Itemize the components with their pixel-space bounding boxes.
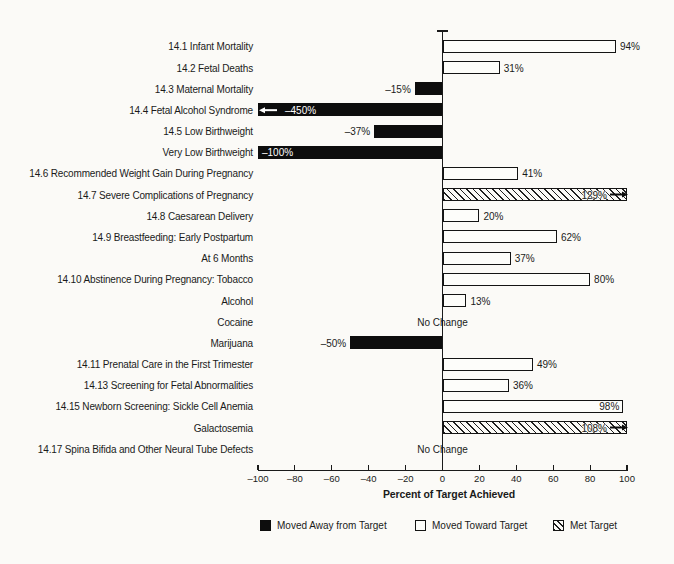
legend-item: Moved Away from Target	[260, 520, 387, 531]
legend-label: Met Target	[570, 520, 617, 531]
legend: Moved Away from TargetMoved Toward Targe…	[0, 0, 674, 564]
chart-figure: 14.1 Infant Mortality94%14.2 Fetal Death…	[0, 0, 674, 564]
legend-item: Met Target	[553, 520, 617, 531]
legend-label: Moved Toward Target	[432, 520, 527, 531]
legend-swatch-met	[553, 520, 564, 531]
legend-item: Moved Toward Target	[415, 520, 527, 531]
legend-label: Moved Away from Target	[277, 520, 387, 531]
legend-swatch-toward	[415, 520, 426, 531]
legend-swatch-away	[260, 520, 271, 531]
